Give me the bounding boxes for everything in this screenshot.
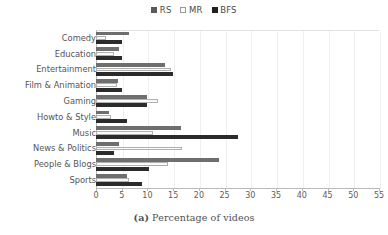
bar-group	[96, 93, 379, 109]
bar-mr	[96, 83, 117, 87]
x-tick-label: 20	[194, 192, 204, 200]
bar-row: Film & Animation	[0, 77, 388, 93]
bar-group	[96, 172, 379, 188]
figure-caption: (a) Percentage of videos	[0, 212, 388, 223]
bar-rs	[96, 95, 147, 99]
bar-group	[96, 30, 379, 46]
legend-swatch-mr-icon	[180, 7, 186, 13]
category-label: Education	[55, 50, 96, 58]
x-axis-line	[96, 188, 379, 189]
bar-mr	[96, 147, 182, 151]
bar-row: Entertainment	[0, 62, 388, 78]
bar-bfs	[96, 40, 122, 44]
bar-mr	[96, 162, 168, 166]
bar-rs	[96, 32, 129, 36]
category-label: Gaming	[64, 97, 96, 105]
category-label: Entertainment	[36, 65, 96, 73]
x-tick-label: 35	[271, 192, 281, 200]
x-tick-label: 40	[297, 192, 307, 200]
bar-row: People & Blogs	[0, 156, 388, 172]
caption-text: Percentage of videos	[152, 212, 254, 223]
legend-item-bfs: BFS	[212, 6, 237, 15]
bar-rs	[96, 79, 118, 83]
bar-group	[96, 46, 379, 62]
bar-bfs	[96, 56, 122, 60]
category-label: Music	[72, 129, 96, 137]
legend-item-mr: MR	[180, 6, 202, 15]
bar-group	[96, 141, 379, 157]
bar-rs	[96, 63, 165, 67]
bar-mr	[96, 115, 111, 119]
bar-group	[96, 109, 379, 125]
bar-row: Gaming	[0, 93, 388, 109]
bar-mr	[96, 52, 114, 56]
bar-bfs	[96, 72, 173, 76]
caption-prefix: (a)	[134, 212, 149, 223]
legend-swatch-rs-icon	[151, 7, 157, 13]
category-label: People & Blogs	[34, 160, 96, 168]
category-label: Comedy	[62, 34, 96, 42]
x-tick-label: 15	[168, 192, 178, 200]
x-tick-label: 45	[322, 192, 332, 200]
bar-rs	[96, 111, 109, 115]
x-tick-label: 5	[119, 192, 124, 200]
bar-bfs	[96, 103, 147, 107]
x-tick-label: 55	[374, 192, 384, 200]
chart-legend: RS MR BFS	[0, 6, 388, 15]
bar-row: Education	[0, 46, 388, 62]
bar-bfs	[96, 135, 238, 139]
category-label: News & Politics	[33, 144, 96, 152]
bar-row: News & Politics	[0, 141, 388, 157]
bar-mr	[96, 36, 106, 40]
bar-rows: ComedyEducationEntertainmentFilm & Anima…	[0, 30, 388, 188]
legend-label-bfs: BFS	[220, 6, 237, 15]
figure-percentage-of-videos: RS MR BFS 0510152025303540455055 ComedyE…	[0, 0, 388, 235]
bar-rs	[96, 174, 127, 178]
bar-row: Music	[0, 125, 388, 141]
legend-item-rs: RS	[151, 6, 171, 15]
bar-bfs	[96, 119, 127, 123]
bar-mr	[96, 178, 129, 182]
bar-rs	[96, 142, 119, 146]
x-tick-label: 0	[93, 192, 98, 200]
bar-group	[96, 77, 379, 93]
bar-group	[96, 125, 379, 141]
category-label: Film & Animation	[25, 81, 96, 89]
legend-label-mr: MR	[189, 6, 203, 15]
bar-rs	[96, 47, 119, 51]
bar-row: Sports	[0, 172, 388, 188]
x-tick-label: 50	[348, 192, 358, 200]
bar-bfs	[96, 151, 114, 155]
bar-group	[96, 156, 379, 172]
bar-mr	[96, 68, 171, 72]
legend-label-rs: RS	[160, 6, 172, 15]
legend-swatch-bfs-icon	[212, 7, 218, 13]
bar-rs	[96, 126, 181, 130]
bar-rs	[96, 158, 219, 162]
category-label: Sports	[69, 176, 96, 184]
bar-bfs	[96, 88, 122, 92]
bar-row: Howto & Style	[0, 109, 388, 125]
bar-group	[96, 62, 379, 78]
bar-mr	[96, 99, 158, 103]
x-tick-label: 25	[220, 192, 230, 200]
bar-row: Comedy	[0, 30, 388, 46]
x-tick-label: 30	[245, 192, 255, 200]
bar-bfs	[96, 167, 149, 171]
bar-bfs	[96, 182, 142, 186]
bar-mr	[96, 131, 153, 135]
x-tick-label: 10	[142, 192, 152, 200]
category-label: Howto & Style	[37, 113, 96, 121]
